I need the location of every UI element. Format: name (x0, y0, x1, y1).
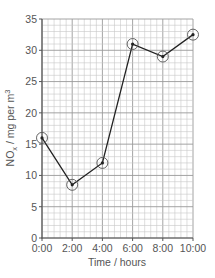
data-point-dot (191, 33, 194, 36)
y-tick-labels: 05101520253035 (25, 13, 42, 244)
data-point-dot (40, 136, 43, 139)
x-tick-label: 2:00 (62, 242, 83, 254)
y-tick-label: 15 (25, 138, 37, 150)
y-axis-title-rest: / mg per m (4, 94, 16, 147)
y-axis-title-sup: 3 (3, 90, 12, 94)
x-tick-labels: 0:002:004:006:008:0010:00 (32, 238, 207, 254)
y-tick-label: 20 (25, 107, 37, 119)
y-tick-label: 10 (25, 169, 37, 181)
x-tick-label: 10:00 (180, 242, 206, 254)
y-tick-label: 25 (25, 75, 37, 87)
data-point-dot (71, 183, 74, 186)
x-tick-label: 6:00 (122, 242, 143, 254)
data-series (37, 29, 199, 190)
x-axis-title: Time / hours (88, 256, 146, 268)
series-line (42, 35, 193, 185)
data-point-dot (131, 42, 134, 45)
y-tick-label: 35 (25, 13, 37, 25)
x-tick-label: 8:00 (153, 242, 174, 254)
y-axis-title-main: NO (4, 151, 16, 167)
x-tick-label: 4:00 (92, 242, 113, 254)
data-point-dot (101, 161, 104, 164)
y-tick-label: 30 (25, 44, 37, 56)
y-tick-label: 5 (31, 201, 37, 213)
data-point-dot (161, 55, 164, 58)
line-chart: 05101520253035 0:002:004:006:008:0010:00… (0, 0, 215, 278)
x-tick-label: 0:00 (32, 242, 53, 254)
y-axis-title: NOx / mg per m3 (3, 90, 19, 167)
